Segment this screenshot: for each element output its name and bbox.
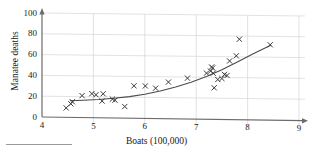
scatter-plot xyxy=(0,0,313,155)
grid-lines xyxy=(42,13,305,128)
x-tick-label: 4 xyxy=(35,121,49,130)
data-point-marker xyxy=(153,86,158,91)
data-point-marker xyxy=(227,58,232,63)
exponential-fit-curve xyxy=(70,45,270,100)
data-point-marker xyxy=(70,99,75,104)
y-axis-label: Manatee deaths xyxy=(10,18,20,104)
data-point-marker xyxy=(122,104,127,109)
data-point-marker xyxy=(185,76,190,81)
data-point-marker xyxy=(166,79,171,84)
y-tick-label: 0 xyxy=(15,113,37,122)
x-tick-label: 5 xyxy=(86,122,100,131)
data-point-marker xyxy=(131,83,136,88)
grid-line-horizontal xyxy=(42,55,305,58)
x-tick-label: 6 xyxy=(138,122,152,131)
data-point-marker xyxy=(101,91,106,96)
grid-line-horizontal xyxy=(42,75,305,78)
data-point-marker xyxy=(237,37,242,42)
data-point-marker xyxy=(212,85,217,90)
x-axis xyxy=(42,117,304,121)
y-tick-label: 100 xyxy=(15,9,37,18)
axis-lines xyxy=(39,8,308,123)
x-tick-label: 8 xyxy=(241,123,255,132)
grid-line-horizontal xyxy=(42,13,305,16)
data-point-marker xyxy=(79,93,84,98)
grid-line-horizontal xyxy=(42,34,305,37)
x-axis-arrow xyxy=(302,118,308,123)
x-tick-label: 9 xyxy=(292,124,306,133)
data-point-marker xyxy=(234,53,239,58)
data-point-marker xyxy=(143,83,148,88)
fit-curve xyxy=(70,45,270,100)
chart-figure: 020406080100 456789 Boats (100,000) Mana… xyxy=(0,0,313,155)
y-axis-arrow xyxy=(39,8,44,15)
data-point-marker xyxy=(268,42,273,47)
page-rule xyxy=(6,144,72,145)
x-tick-label: 7 xyxy=(189,123,203,132)
